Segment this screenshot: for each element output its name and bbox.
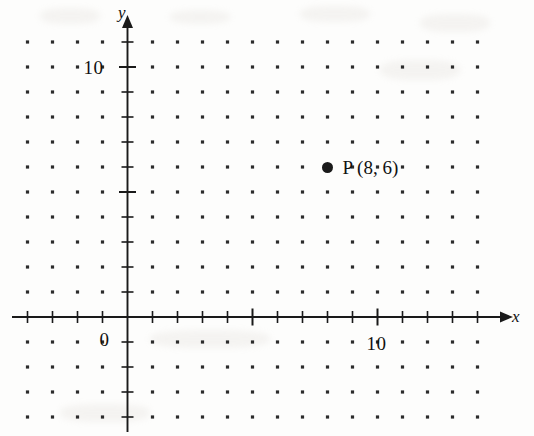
y-axis-arrowhead [122, 15, 133, 28]
axes-layer [0, 0, 534, 436]
coordinate-plane-figure: y x 0 10 10 P (8, 6) [0, 0, 534, 436]
x-axis-arrowhead [500, 312, 513, 323]
